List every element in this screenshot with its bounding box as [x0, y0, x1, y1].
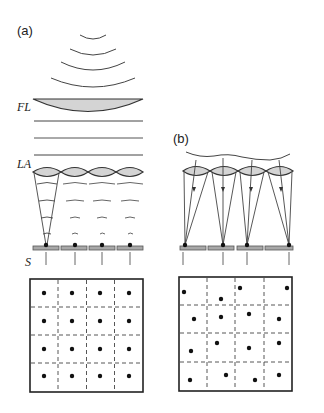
spot-grid-a: [30, 279, 143, 392]
panel-b: (b): [173, 131, 293, 391]
converging-wavefronts: [63, 183, 143, 235]
s-label: S: [25, 255, 31, 269]
diagram: (a) FL LA: [0, 0, 324, 413]
la-label: LA: [16, 157, 32, 171]
sensor-array-b: [180, 246, 293, 250]
lenslet-array: [33, 168, 143, 177]
panel-a-label: (a): [17, 23, 33, 38]
sensor-array: [33, 246, 143, 250]
aberrated-wavefront: [186, 152, 290, 160]
ray-arrowheads: [192, 187, 283, 192]
fourier-lens: [33, 99, 143, 112]
incoming-wavefronts: [51, 35, 135, 87]
optical-axes: [46, 252, 130, 265]
lenslet-array-b: [183, 167, 293, 176]
focus-cone: [34, 173, 59, 245]
fl-label: FL: [16, 100, 31, 114]
plane-wavefronts: [34, 121, 143, 155]
panel-b-label: (b): [173, 131, 189, 146]
panel-a: (a) FL LA: [16, 23, 143, 392]
spot-grid-b: [179, 277, 292, 391]
optical-axes-b: [183, 252, 289, 265]
